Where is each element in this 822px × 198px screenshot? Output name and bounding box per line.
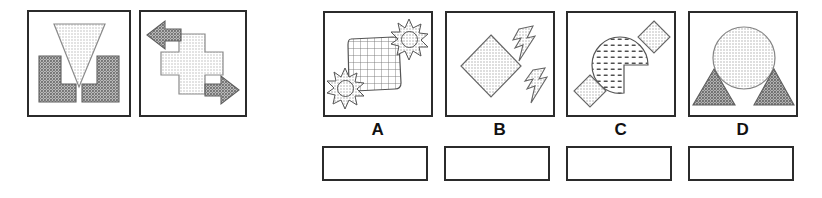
option-a-content — [325, 13, 431, 115]
answer-box-c[interactable] — [566, 146, 672, 181]
stimulus-2-graphics — [141, 12, 245, 115]
option-panel-a[interactable] — [323, 11, 433, 117]
diamond-shape — [461, 35, 521, 97]
option-c-graphics — [568, 13, 674, 115]
arrow-left-shape — [147, 21, 181, 49]
option-panel-b[interactable] — [445, 11, 555, 117]
stimulus-panel-1-content — [29, 12, 129, 115]
puzzle-stage: A B C D — [0, 0, 822, 198]
option-label-d: D — [688, 120, 798, 140]
option-d-content — [690, 13, 796, 115]
option-c-content — [568, 13, 674, 115]
stimulus-panel-1 — [27, 10, 131, 117]
option-d-graphics — [690, 13, 796, 115]
option-label-a: A — [323, 120, 433, 140]
arrow-right-shape — [205, 76, 239, 104]
stimulus-1-graphics — [29, 12, 129, 115]
circle-shape — [713, 27, 775, 89]
option-label-c: C — [566, 120, 676, 140]
stimulus-panel-2-content — [141, 12, 245, 115]
option-panel-d[interactable] — [688, 11, 798, 117]
answer-box-a[interactable] — [322, 146, 428, 181]
option-label-b: B — [445, 120, 555, 140]
stimulus-panel-2 — [139, 10, 247, 117]
answer-box-d[interactable] — [688, 146, 794, 181]
option-b-content — [447, 13, 553, 115]
answer-box-b[interactable] — [444, 146, 550, 181]
option-panel-c[interactable] — [566, 11, 676, 117]
option-b-graphics — [447, 13, 553, 115]
lightning-bolt-lower-shape — [525, 68, 547, 103]
lightning-bolt-upper-shape — [513, 26, 535, 61]
option-a-graphics — [325, 13, 431, 115]
